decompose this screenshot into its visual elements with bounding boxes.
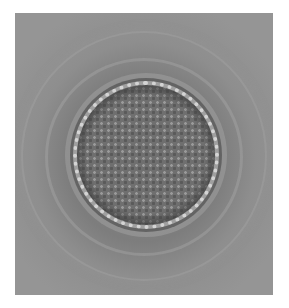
beaded-rim [73, 81, 219, 229]
micrograph [15, 13, 273, 295]
